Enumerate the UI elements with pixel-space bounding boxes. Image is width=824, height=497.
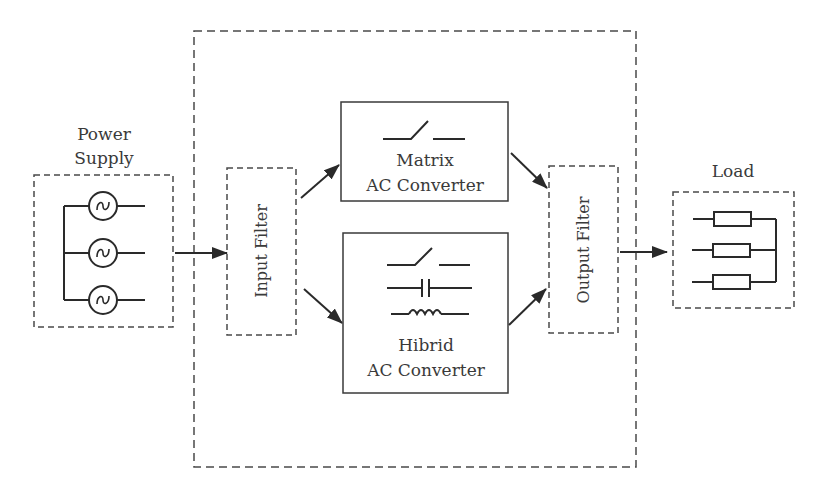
matrix-converter-label-line2: AC Converter: [365, 175, 485, 195]
switch-icon: [383, 121, 465, 139]
resistor-icon: [693, 212, 776, 226]
ac-source-icon: [64, 239, 145, 267]
arrow-input-to-hybrid: [304, 289, 342, 323]
input-filter-block: Input Filter: [227, 168, 296, 335]
hybrid-converter-label-line1: Hibrid: [398, 335, 454, 355]
load-label: Load: [712, 161, 755, 181]
power-supply-label-line1: Power: [77, 124, 132, 144]
ac-source-icon: [64, 286, 145, 314]
ac-source-icon: [64, 192, 145, 220]
arrow-input-to-matrix: [301, 165, 339, 198]
power-supply-label-line2: Supply: [74, 148, 134, 168]
arrow-matrix-to-output: [511, 153, 547, 188]
capacitor-icon: [387, 279, 472, 297]
power-supply-block: Power Supply: [34, 124, 173, 327]
input-filter-label: Input Filter: [252, 204, 271, 298]
output-filter-block: Output Filter: [549, 166, 618, 333]
output-filter-label: Output Filter: [574, 196, 593, 303]
hybrid-converter-block: Hibrid AC Converter: [343, 233, 508, 393]
inductor-icon: [391, 310, 469, 314]
resistor-icon: [692, 275, 776, 289]
load-block: Load: [673, 161, 794, 308]
ac-converter-diagram: Power Supply Input Filter: [0, 0, 824, 497]
arrow-hybrid-to-output: [509, 289, 546, 325]
matrix-converter-label-line1: Matrix: [396, 150, 454, 170]
resistor-icon: [692, 244, 776, 257]
hybrid-converter-label-line2: AC Converter: [366, 360, 486, 380]
matrix-converter-block: Matrix AC Converter: [341, 102, 508, 201]
switch-icon: [387, 248, 470, 265]
